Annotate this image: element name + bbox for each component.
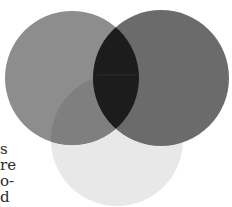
- venn-diagram: [0, 0, 232, 207]
